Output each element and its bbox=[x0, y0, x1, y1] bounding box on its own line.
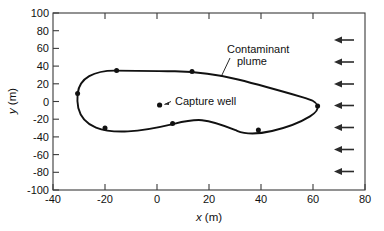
y-axis-title-unit: (m) bbox=[6, 88, 18, 109]
x-tick-label-40: 40 bbox=[255, 193, 267, 205]
plume-node-upper-left bbox=[114, 68, 119, 73]
x-tick-label-20: 20 bbox=[203, 193, 215, 205]
plume-node-upper-right bbox=[190, 69, 195, 74]
y-tick-label-n60: -60 bbox=[33, 149, 49, 161]
flow-arrowhead-3 bbox=[334, 81, 342, 88]
flow-arrowhead-6 bbox=[334, 146, 342, 153]
x-axis-tick-labels: -40 -20 0 20 40 60 80 bbox=[45, 193, 371, 205]
y-tick-label-n40: -40 bbox=[33, 131, 49, 143]
plume-label-line1: Contaminant bbox=[227, 43, 289, 55]
y-tick-label-60: 60 bbox=[37, 42, 49, 54]
y-tick-label-80: 80 bbox=[37, 25, 49, 37]
flow-arrow-1 bbox=[334, 37, 354, 44]
plume-node-lower-left bbox=[103, 126, 108, 131]
capture-well-group: Capture well bbox=[157, 95, 236, 108]
flow-arrow-6 bbox=[334, 146, 354, 153]
capture-well-dot bbox=[157, 102, 162, 107]
plume-node-right-tip bbox=[315, 103, 320, 108]
flow-arrow-5 bbox=[334, 124, 354, 131]
y-axis-title: y (m) bbox=[6, 88, 18, 115]
x-tick-label-60: 60 bbox=[307, 193, 319, 205]
capture-well-leader-arrowhead bbox=[164, 102, 169, 105]
flow-arrow-2 bbox=[334, 59, 354, 66]
x-tick-label-80: 80 bbox=[359, 193, 371, 205]
flow-arrow-3 bbox=[334, 81, 354, 88]
plume-node-lower-mid bbox=[170, 121, 175, 126]
contaminant-plume-annotation: Contaminant plume bbox=[221, 43, 289, 77]
x-tick-label-n20: -20 bbox=[97, 193, 113, 205]
plume-leader-line bbox=[221, 58, 230, 77]
capture-well-label: Capture well bbox=[175, 95, 236, 107]
flow-arrowhead-1 bbox=[334, 37, 342, 44]
y-tick-label-40: 40 bbox=[37, 60, 49, 72]
y-axis-tick-labels: 100 80 60 40 20 0 -20 -40 -60 -80 -100 bbox=[27, 7, 49, 196]
plume-label-line2: plume bbox=[237, 55, 267, 67]
flow-arrowhead-7 bbox=[334, 168, 342, 175]
x-tick-label-0: 0 bbox=[154, 193, 160, 205]
flow-arrow-7 bbox=[334, 168, 354, 175]
plume-capture-well-chart: 100 80 60 40 20 0 -20 -40 -60 -80 -100 bbox=[0, 0, 384, 231]
y-tick-label-100: 100 bbox=[31, 7, 49, 19]
x-tick-label-n40: -40 bbox=[45, 193, 61, 205]
y-tick-label-n20: -20 bbox=[33, 113, 49, 125]
y-axis-ticks bbox=[53, 13, 59, 190]
flow-arrow-4 bbox=[334, 102, 354, 109]
groundwater-flow-arrows bbox=[334, 37, 354, 175]
plume-node-left-tip bbox=[75, 91, 80, 96]
flow-arrowhead-2 bbox=[334, 59, 342, 66]
x-axis-title-unit: (m) bbox=[202, 211, 223, 223]
flow-arrowhead-4 bbox=[334, 102, 342, 109]
flow-arrowhead-5 bbox=[334, 124, 342, 131]
x-axis-title: x (m) bbox=[195, 211, 222, 223]
y-tick-label-n80: -80 bbox=[33, 166, 49, 178]
plume-node-lower-right bbox=[256, 127, 261, 132]
y-tick-label-0: 0 bbox=[43, 96, 49, 108]
figure-root: 100 80 60 40 20 0 -20 -40 -60 -80 -100 bbox=[0, 0, 384, 231]
y-tick-label-20: 20 bbox=[37, 78, 49, 90]
